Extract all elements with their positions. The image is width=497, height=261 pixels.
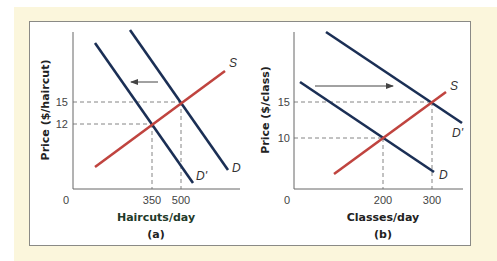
chart-b-ytick-15: 15: [278, 96, 290, 108]
chart-b-ytick-10: 10: [278, 132, 290, 144]
figure-svg: S D D' 15 12 0 350 500 Price ($/haircut)…: [0, 0, 497, 261]
chart-b-label-D: D: [439, 168, 448, 182]
chart-b-demand-D-prime: [326, 32, 462, 123]
chart-b-guides: [294, 102, 432, 189]
chart-a-supply-S: [95, 71, 225, 167]
chart-a-xlabel: Haircuts/day: [117, 211, 195, 224]
chart-b-supply-S: [334, 92, 446, 174]
chart-b-label-S: S: [450, 79, 458, 93]
chart-b-axes: [294, 32, 463, 189]
chart-b-label-D-prime: D': [452, 126, 464, 140]
chart-a-label-D-prime: D': [196, 169, 208, 183]
chart-a-ytick-12: 12: [56, 118, 68, 130]
chart-b-xlabel: Classes/day: [347, 211, 420, 224]
chart-b-xtick-200: 200: [374, 194, 392, 206]
chart-a-ytick-15: 15: [56, 96, 68, 108]
chart-a-xtick-500: 500: [172, 194, 190, 206]
chart-b-xtick-300: 300: [423, 194, 441, 206]
chart-a-xtick-350: 350: [143, 194, 161, 206]
chart-b: S D' D 15 10 0 200 300 Price ($/class) C…: [259, 32, 464, 241]
chart-a-label-D: D: [232, 161, 241, 175]
chart-a: S D D' 15 12 0 350 500 Price ($/haircut)…: [39, 30, 241, 241]
chart-b-ylabel: Price ($/class): [259, 66, 272, 154]
chart-a-origin: 0: [63, 194, 69, 206]
chart-b-demand-D: [300, 82, 434, 172]
chart-a-caption: (a): [147, 228, 164, 241]
chart-b-origin: 0: [284, 194, 290, 206]
chart-b-caption: (b): [374, 228, 392, 241]
chart-a-label-S: S: [229, 56, 237, 70]
chart-a-demand-D: [130, 30, 228, 170]
chart-a-demand-D-prime: [95, 43, 193, 183]
chart-a-ylabel: Price ($/haircut): [39, 60, 52, 161]
